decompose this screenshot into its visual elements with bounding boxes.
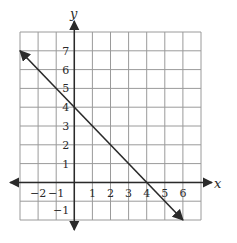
coordinate-plane: −2−11234567654321−1 x y bbox=[0, 0, 237, 243]
x-tick-label: −2 bbox=[30, 187, 46, 200]
y-tick-label: 6 bbox=[62, 64, 69, 77]
y-tick-label: 3 bbox=[62, 120, 69, 133]
x-tick-label: 6 bbox=[179, 187, 186, 200]
y-tick-label: 7 bbox=[62, 45, 69, 58]
y-tick-label: 4 bbox=[62, 101, 69, 114]
y-tick-label: 1 bbox=[62, 158, 69, 171]
x-tick-label: −1 bbox=[48, 187, 64, 200]
y-tick-label: 2 bbox=[62, 139, 69, 152]
x-tick-label: 3 bbox=[125, 187, 132, 200]
y-tick-label: 5 bbox=[62, 82, 69, 95]
y-tick-label: −1 bbox=[53, 204, 69, 217]
x-axis-label: x bbox=[214, 176, 222, 191]
x-tick-label: 4 bbox=[143, 187, 150, 200]
tick-labels: −2−11234567654321−1 bbox=[30, 45, 186, 217]
x-tick-label: 2 bbox=[107, 187, 114, 200]
x-tick-label: 1 bbox=[89, 187, 96, 200]
y-axis-label: y bbox=[69, 6, 78, 21]
